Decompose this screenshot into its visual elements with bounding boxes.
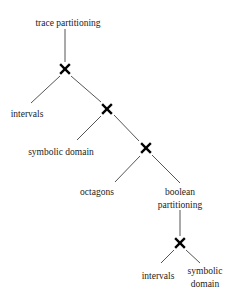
node-intervals2-label: intervals <box>142 271 175 281</box>
edge-x1-x2 <box>71 76 101 102</box>
cross-icon <box>142 144 150 152</box>
edges <box>31 29 200 263</box>
edge-x2-symbolic <box>77 116 101 140</box>
node-boolean-label-line2: partitioning <box>158 200 203 210</box>
node-root-label: trace partitioning <box>35 18 100 28</box>
node-symbolic-domain-label: symbolic domain <box>28 147 94 157</box>
edge-x3-octagons <box>115 156 140 182</box>
node-boolean-label-line1: boolean <box>165 187 195 197</box>
cross-icon <box>176 239 184 247</box>
cross-icon <box>61 65 69 73</box>
edge-x3-boolean <box>152 155 180 183</box>
node-octagons-label: octagons <box>80 187 114 197</box>
edge-x4-symbolic <box>186 250 200 263</box>
node-symbolic2-label-line2: domain <box>191 279 220 289</box>
tree-diagram: trace partitioning intervals symbolic do… <box>0 0 242 304</box>
node-intervals-label: intervals <box>11 109 44 119</box>
edge-x1-intervals <box>31 76 60 103</box>
cross-icon <box>103 105 111 113</box>
edge-x4-intervals <box>161 250 174 263</box>
node-symbolic2-label-line1: symbolic <box>188 266 223 276</box>
edge-x2-x3 <box>114 115 139 141</box>
